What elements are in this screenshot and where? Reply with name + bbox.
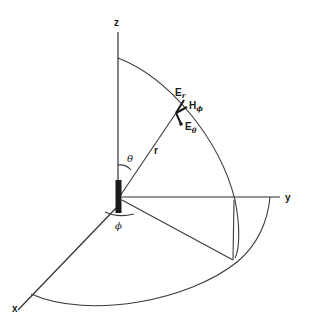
vertical-drop-line	[233, 200, 234, 260]
theta-arc	[118, 165, 131, 170]
e-theta-vector	[176, 113, 181, 124]
y-label: y	[285, 192, 291, 203]
spherical-coordinates-diagram: z y x r θ ϕ Er Hϕ Eθ	[0, 0, 312, 334]
phi-label: ϕ	[115, 220, 122, 231]
r-label: r	[154, 145, 158, 156]
projection-line	[122, 200, 233, 260]
x-label: x	[12, 303, 18, 314]
theta-label: θ	[127, 153, 133, 164]
h-phi-label: Hϕ	[189, 100, 203, 113]
dipole-antenna	[116, 180, 122, 213]
z-label: z	[114, 17, 119, 28]
e-theta-arrowhead	[179, 122, 183, 126]
e-theta-label: Eθ	[185, 121, 197, 135]
